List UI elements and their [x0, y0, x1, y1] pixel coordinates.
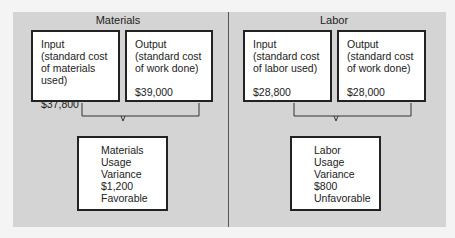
- labor-variance-box: Labor Usage Variance $800 Unfavorable: [290, 136, 381, 211]
- input-desc: (standard cost: [253, 50, 322, 62]
- labor-title: Labor: [229, 14, 439, 26]
- input-label: Input: [41, 38, 110, 50]
- variance-status: Unfavorable: [314, 192, 379, 204]
- labor-output-box: Output (standard cost of work done) $28,…: [337, 30, 426, 102]
- input-desc: of labor used): [253, 62, 322, 74]
- output-label: Output: [347, 38, 416, 50]
- output-amount: $28,000: [347, 86, 416, 98]
- materials-title: Materials: [13, 14, 223, 26]
- output-desc: of work done): [347, 62, 416, 74]
- materials-variance-box: Materials Usage Variance $1,200 Favorabl…: [77, 136, 168, 211]
- materials-output-box: Output (standard cost of work done) $39,…: [125, 30, 213, 102]
- variance-line: Labor: [314, 144, 379, 156]
- output-label: Output: [135, 38, 203, 50]
- variance-line: Usage: [101, 156, 166, 168]
- output-desc: (standard cost: [135, 50, 203, 62]
- input-amount: $28,800: [253, 86, 322, 98]
- input-amount: $37,800: [41, 98, 110, 110]
- labor-bracket: [294, 103, 411, 121]
- labor-input-box: Input (standard cost of labor used) $28,…: [243, 30, 332, 102]
- variance-amount: $800: [314, 180, 379, 192]
- output-desc: (standard cost: [347, 50, 416, 62]
- materials-input-box: Input (standard cost of materials used) …: [31, 30, 120, 102]
- output-amount: $39,000: [135, 86, 203, 98]
- variance-amount: $1,200: [101, 180, 166, 192]
- variance-line: Usage: [314, 156, 379, 168]
- input-label: Input: [253, 38, 322, 50]
- output-desc: of work done): [135, 62, 203, 74]
- variance-line: Variance: [101, 168, 166, 180]
- variance-line: Variance: [314, 168, 379, 180]
- input-desc: of materials used): [41, 62, 110, 86]
- variance-status: Favorable: [101, 192, 166, 204]
- variance-line: Materials: [101, 144, 166, 156]
- input-desc: (standard cost: [41, 50, 110, 62]
